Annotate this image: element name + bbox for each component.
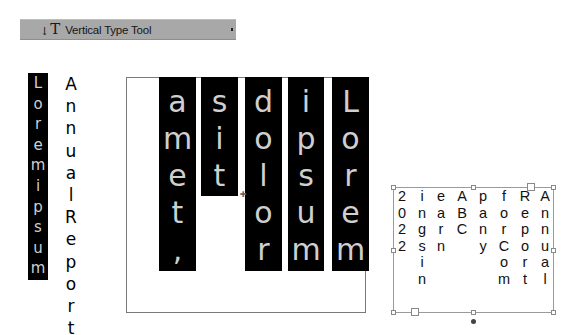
glyph: e bbox=[434, 188, 448, 205]
glyph: A bbox=[455, 188, 469, 205]
glyph: o bbox=[497, 254, 511, 271]
glyph: e bbox=[33, 135, 42, 156]
glyph: 2 bbox=[395, 221, 409, 238]
glyph: r bbox=[68, 295, 75, 317]
glyph: u bbox=[33, 238, 43, 259]
glyph: , bbox=[173, 231, 183, 268]
column-ipsum[interactable]: ipsum bbox=[288, 77, 324, 271]
glyph: R bbox=[518, 188, 532, 205]
glyph: o bbox=[341, 120, 359, 157]
glyph: y bbox=[476, 238, 490, 255]
glyph: m bbox=[163, 120, 192, 157]
glyph: t bbox=[172, 194, 184, 231]
glyph: p bbox=[476, 188, 490, 205]
glyph: a bbox=[538, 254, 552, 271]
column-sit[interactable]: sit bbox=[201, 77, 238, 196]
glyph: n bbox=[476, 221, 490, 238]
glyph: n bbox=[434, 238, 448, 255]
glyph: a bbox=[476, 205, 490, 222]
out-port-handle[interactable] bbox=[411, 308, 419, 316]
resize-handle-bottom-center[interactable] bbox=[471, 310, 476, 315]
down-arrow-icon: ↓ bbox=[40, 26, 49, 37]
glyph: a bbox=[434, 205, 448, 222]
glyph: 0 bbox=[395, 205, 409, 222]
tool-name-label: Vertical Type Tool bbox=[65, 24, 151, 36]
glyph: r bbox=[518, 254, 532, 271]
glyph: r bbox=[434, 221, 448, 238]
highlighted-vertical-text-lorem-ipsum[interactable]: Loremipsum bbox=[28, 73, 48, 280]
vertical-type-tool-icon[interactable]: ↓ T bbox=[40, 22, 60, 37]
glyph: p bbox=[518, 221, 532, 238]
glyph: r bbox=[257, 231, 269, 268]
small-column-2[interactable]: earn bbox=[434, 187, 448, 259]
glyph: n bbox=[415, 205, 429, 222]
column-dolor[interactable]: dolor bbox=[245, 77, 282, 271]
glyph: p bbox=[33, 197, 43, 218]
glyph: t bbox=[68, 317, 75, 335]
small-column-0[interactable]: 2022 bbox=[395, 187, 409, 259]
glyph: o bbox=[254, 120, 272, 157]
glyph: A bbox=[538, 188, 552, 205]
glyph: 2 bbox=[395, 238, 409, 255]
small-column-3[interactable]: ABC bbox=[455, 187, 469, 243]
small-column-4[interactable]: pany bbox=[476, 187, 490, 259]
small-column-1[interactable]: ingsin bbox=[415, 187, 429, 292]
glyph: L bbox=[342, 83, 359, 120]
glyph: n bbox=[66, 95, 77, 117]
insertion-cross-icon: ✚ bbox=[240, 190, 247, 199]
glyph: i bbox=[36, 176, 40, 197]
glyph: r bbox=[35, 114, 41, 135]
glyph: R bbox=[65, 206, 77, 228]
glyph: f bbox=[497, 188, 511, 205]
glyph: m bbox=[497, 271, 511, 288]
glyph: t bbox=[214, 157, 226, 194]
glyph: o bbox=[66, 273, 76, 295]
tool-options-bar: ↓ T Vertical Type Tool bbox=[20, 19, 236, 40]
glyph: s bbox=[34, 217, 42, 238]
glyph: u bbox=[66, 140, 77, 162]
glyph: i bbox=[215, 120, 223, 157]
vertical-text-annual-report[interactable]: AnnualReport bbox=[60, 73, 82, 335]
glyph: i bbox=[415, 254, 429, 271]
glyph: n bbox=[415, 271, 429, 288]
glyph: e bbox=[518, 205, 532, 222]
glyph: o bbox=[33, 94, 42, 115]
glyph: A bbox=[65, 73, 77, 95]
glyph: o bbox=[518, 238, 532, 255]
column-lorem[interactable]: Lorem bbox=[332, 77, 369, 271]
glyph: C bbox=[455, 221, 469, 238]
glyph: a bbox=[66, 162, 76, 184]
reference-point-handle[interactable] bbox=[471, 319, 476, 324]
glyph: d bbox=[254, 83, 273, 120]
glyph: t bbox=[518, 271, 532, 288]
glyph: B bbox=[455, 205, 469, 222]
resize-handle-bottom-left[interactable] bbox=[391, 310, 396, 315]
glyph: n bbox=[538, 221, 552, 238]
glyph: n bbox=[66, 117, 77, 139]
glyph: l bbox=[259, 157, 267, 194]
glyph: p bbox=[296, 120, 315, 157]
small-column-7[interactable]: Annual bbox=[538, 187, 552, 292]
small-column-5[interactable]: forCom bbox=[497, 187, 511, 292]
panel-menu-icon[interactable] bbox=[231, 28, 233, 31]
glyph: e bbox=[168, 157, 186, 194]
glyph: o bbox=[497, 205, 511, 222]
glyph: s bbox=[298, 157, 314, 194]
glyph: i bbox=[302, 83, 310, 120]
column-amet[interactable]: amet, bbox=[159, 77, 196, 271]
type-t-icon: T bbox=[50, 22, 60, 37]
glyph: n bbox=[538, 205, 552, 222]
glyph: u bbox=[296, 194, 315, 231]
glyph: i bbox=[415, 188, 429, 205]
glyph: 2 bbox=[395, 188, 409, 205]
glyph: r bbox=[497, 221, 511, 238]
glyph: o bbox=[254, 194, 272, 231]
resize-handle-bottom-right[interactable] bbox=[551, 310, 556, 315]
glyph: s bbox=[415, 238, 429, 255]
glyph: m bbox=[291, 231, 320, 268]
glyph: a bbox=[168, 83, 186, 120]
glyph: L bbox=[34, 73, 42, 94]
small-column-6[interactable]: Report bbox=[518, 187, 532, 292]
glyph: s bbox=[212, 83, 228, 120]
glyph: e bbox=[341, 194, 359, 231]
